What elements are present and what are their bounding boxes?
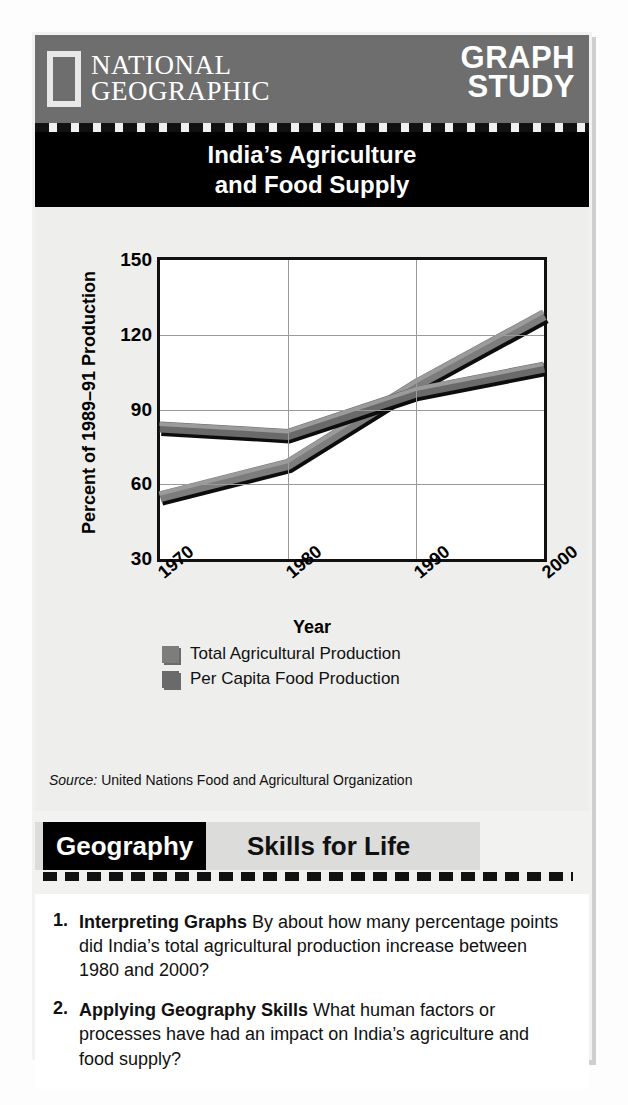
- graph-study-card: NATIONAL GEOGRAPHIC GRAPH STUDY India’s …: [32, 32, 592, 1060]
- legend-item-0: Total Agricultural Production: [162, 644, 462, 664]
- question-number: 2.: [53, 998, 79, 1070]
- ng-yellow-rectangle-icon: [47, 51, 81, 107]
- legend-swatch-icon: [162, 671, 179, 688]
- national-geographic-logo: NATIONAL GEOGRAPHIC: [47, 51, 270, 107]
- series-highlight-0: [160, 312, 544, 494]
- y-axis-tick-150: 150: [120, 249, 152, 271]
- x-axis-label: Year: [35, 617, 589, 638]
- gridline-vertical: [416, 260, 417, 559]
- plot-area: 3060901201501970198019902000: [157, 257, 547, 562]
- source-label: Source:: [49, 772, 97, 788]
- question-number: 1.: [53, 910, 79, 982]
- gridline-horizontal: [160, 335, 544, 336]
- page-root: NATIONAL GEOGRAPHIC GRAPH STUDY India’s …: [0, 0, 628, 1105]
- question-skill-label: Interpreting Graphs: [79, 912, 247, 932]
- chart-legend: Total Agricultural ProductionPer Capita …: [35, 644, 589, 689]
- geography-label-block: Geography: [43, 822, 206, 870]
- feature-title: GRAPH STUDY: [461, 43, 575, 101]
- question-item: 1.Interpreting Graphs By about how many …: [53, 910, 567, 982]
- questions-list: 1.Interpreting Graphs By about how many …: [35, 894, 589, 1089]
- chart-title: India’s Agriculture and Food Supply: [35, 132, 589, 207]
- y-axis-tick-120: 120: [120, 323, 152, 345]
- brand-line-2: GEOGRAPHIC: [91, 79, 270, 105]
- question-text: Interpreting Graphs By about how many pe…: [79, 910, 567, 982]
- question-text: Applying Geography Skills What human fac…: [79, 998, 567, 1070]
- chart-title-line-1: India’s Agriculture: [208, 140, 417, 169]
- gridline-vertical: [288, 260, 289, 559]
- brand-wordmark: NATIONAL GEOGRAPHIC: [91, 53, 270, 105]
- skills-for-life-label: Skills for Life: [247, 831, 410, 862]
- graph-panel: Percent of 1989–91 Production 3060901201…: [35, 207, 589, 811]
- gridline-horizontal: [160, 484, 544, 485]
- y-axis-tick-60: 60: [131, 473, 152, 495]
- dashed-divider-top: [35, 123, 589, 132]
- skills-for-life-label-block: Skills for Life: [247, 822, 410, 870]
- y-axis-label: Percent of 1989–91 Production: [79, 253, 100, 553]
- legend-item-1: Per Capita Food Production: [162, 669, 462, 689]
- geography-label: Geography: [56, 831, 193, 862]
- geography-skills-bar: Geography Skills for Life: [35, 822, 589, 870]
- question-item: 2.Applying Geography Skills What human f…: [53, 998, 567, 1070]
- legend-label: Per Capita Food Production: [190, 669, 400, 689]
- gridline-horizontal: [160, 410, 544, 411]
- dashed-divider-bottom: [43, 872, 573, 881]
- source-text: United Nations Food and Agricultural Org…: [101, 772, 412, 788]
- feature-line-2: STUDY: [461, 72, 575, 101]
- header-bar: NATIONAL GEOGRAPHIC GRAPH STUDY: [35, 35, 589, 123]
- y-axis-tick-90: 90: [131, 398, 152, 420]
- question-skill-label: Applying Geography Skills: [79, 1000, 308, 1020]
- legend-swatch-icon: [162, 646, 179, 663]
- chart-title-line-2: and Food Supply: [215, 170, 410, 199]
- legend-label: Total Agricultural Production: [190, 644, 401, 664]
- y-axis-tick-30: 30: [131, 548, 152, 570]
- source-note: Source: United Nations Food and Agricult…: [49, 772, 412, 788]
- feature-line-1: GRAPH: [461, 43, 575, 72]
- x-axis-tick-2000: 2000: [538, 541, 582, 583]
